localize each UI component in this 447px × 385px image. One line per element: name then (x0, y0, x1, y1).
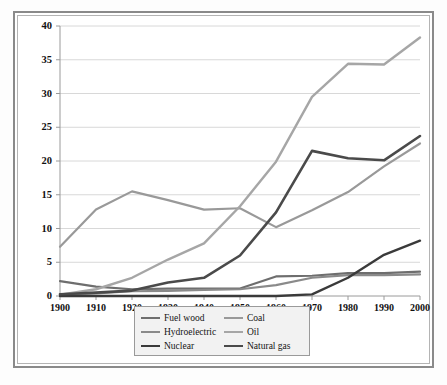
legend-entry-fuel-wood[interactable]: Fuel wood (141, 311, 220, 325)
y-tick-label: 25 (26, 122, 52, 132)
legend-color-swatch (224, 345, 243, 348)
y-tick-label: 40 (26, 21, 52, 31)
chart-legend: Fuel woodCoalHydroelectricOilNuclearNatu… (134, 306, 310, 356)
legend-label: Coal (247, 313, 265, 323)
legend-label: Nuclear (164, 341, 194, 351)
legend-entry-oil[interactable]: Oil (224, 325, 303, 339)
y-tick-label: 35 (26, 55, 52, 65)
figure-canvas: Quadrillion Btu 0510152025303540 1900191… (0, 0, 447, 385)
legend-entry-coal[interactable]: Coal (224, 311, 303, 325)
y-tick-label: 10 (26, 224, 52, 234)
y-tick-label: 0 (26, 291, 52, 301)
legend-label: Hydroelectric (164, 327, 216, 337)
x-tick-label: 1990 (364, 302, 404, 313)
legend-label: Natural gas (247, 341, 291, 351)
x-tick-label: 1900 (40, 302, 80, 313)
y-tick-label: 15 (26, 190, 52, 200)
x-tick-label: 1980 (328, 302, 368, 313)
legend-label: Oil (247, 327, 259, 337)
legend-entry-nuclear[interactable]: Nuclear (141, 339, 220, 353)
x-tick-label: 2000 (400, 302, 440, 313)
legend-color-swatch (224, 317, 243, 319)
legend-entry-hydroelectric[interactable]: Hydroelectric (141, 325, 220, 339)
legend-color-swatch (141, 317, 160, 319)
legend-color-swatch (224, 331, 243, 333)
y-tick-label: 30 (26, 89, 52, 99)
legend-color-swatch (141, 345, 160, 347)
legend-color-swatch (141, 331, 160, 333)
x-tick-label: 1910 (76, 302, 116, 313)
legend-label: Fuel wood (164, 313, 204, 323)
y-tick-label: 5 (26, 257, 52, 267)
y-tick-label: 20 (26, 156, 52, 166)
legend-entry-natural-gas[interactable]: Natural gas (224, 339, 303, 353)
